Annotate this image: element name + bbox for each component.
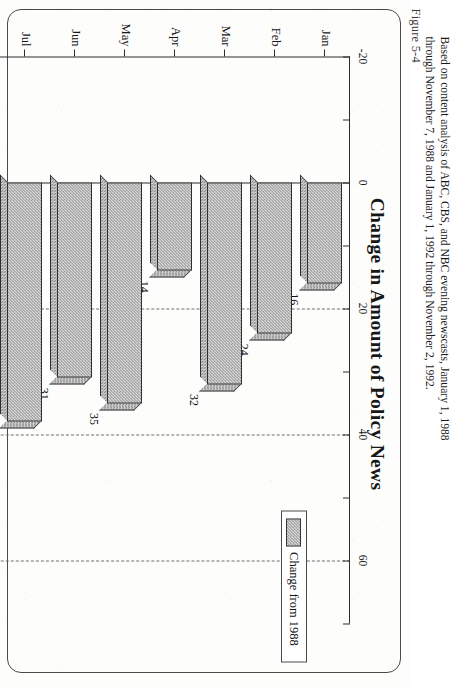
bar-Jan bbox=[308, 182, 343, 283]
chart-title: Change in Amount of Policy News bbox=[366, 0, 388, 687]
bar-face-Jul bbox=[8, 182, 43, 421]
category-label-Apr: Apr bbox=[168, 12, 183, 46]
category-tick-May bbox=[124, 49, 125, 56]
category-tick-Jun bbox=[74, 49, 75, 56]
bar-face-Mar bbox=[208, 182, 243, 384]
category-tick-Jan bbox=[324, 49, 325, 56]
value-tick-label--20: -20 bbox=[357, 48, 369, 63]
figure-number: Figure 5-4 bbox=[408, 8, 423, 62]
bar-May bbox=[108, 182, 143, 403]
category-axis-line bbox=[0, 56, 350, 57]
value-tick-label-0: 0 bbox=[357, 179, 369, 185]
bar-Feb bbox=[258, 182, 293, 333]
value-tick-30 bbox=[343, 371, 350, 372]
value-tick--10 bbox=[343, 119, 350, 120]
value-tick-0 bbox=[343, 182, 350, 183]
value-tick-label-60: 60 bbox=[357, 554, 369, 566]
category-label-May: May bbox=[118, 12, 133, 46]
category-label-Jul: Jul bbox=[18, 12, 33, 46]
bar-Mar bbox=[208, 182, 243, 384]
category-label-Jun: Jun bbox=[68, 12, 83, 46]
gridline-40 bbox=[0, 434, 350, 435]
bar-face-Jun bbox=[58, 182, 93, 377]
value-axis-line bbox=[349, 56, 350, 623]
value-tick-50 bbox=[343, 497, 350, 498]
caption-line-1: Based on content analysis of ABC, CBS, a… bbox=[437, 36, 452, 656]
value-tick-60 bbox=[343, 560, 350, 561]
bar-face-Jan bbox=[308, 182, 343, 283]
bar-value-label-May: 35 bbox=[87, 413, 102, 425]
bar-value-label-Jul: 38 bbox=[0, 431, 2, 443]
category-label-Mar: Mar bbox=[218, 12, 233, 46]
legend-swatch-icon bbox=[287, 518, 302, 546]
value-tick-label-20: 20 bbox=[357, 302, 369, 314]
category-tick-Apr bbox=[174, 49, 175, 56]
value-tick-20 bbox=[343, 308, 350, 309]
bar-Apr bbox=[158, 182, 193, 270]
category-label-Feb: Feb bbox=[268, 12, 283, 46]
caption-line-2: through November 7, 1988 and January 1, … bbox=[422, 36, 437, 656]
value-tick-70 bbox=[343, 623, 350, 624]
bar-face-May bbox=[108, 182, 143, 403]
bar-face-Feb bbox=[258, 182, 293, 333]
chart-legend: Change from 1988 bbox=[281, 510, 307, 662]
value-tick-40 bbox=[343, 434, 350, 435]
category-tick-Feb bbox=[274, 49, 275, 56]
figure-caption: Based on content analysis of ABC, CBS, a… bbox=[422, 36, 452, 656]
bar-value-label-Mar: 32 bbox=[187, 394, 202, 406]
value-tick-10 bbox=[343, 245, 350, 246]
bar-face-Apr bbox=[158, 182, 193, 270]
bar-Jun bbox=[58, 182, 93, 377]
legend-label: Change from 1988 bbox=[287, 552, 302, 646]
category-label-Jan: Jan bbox=[318, 12, 333, 46]
value-tick-label-40: 40 bbox=[357, 428, 369, 440]
bar-Jul bbox=[8, 182, 43, 421]
category-tick-Jul bbox=[24, 49, 25, 56]
category-tick-Mar bbox=[224, 49, 225, 56]
